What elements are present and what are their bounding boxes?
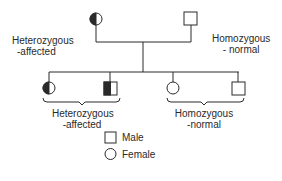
child-3-symbol — [167, 82, 179, 94]
marriage-line — [96, 25, 191, 42]
affected-group-label: Heterozygous -affected — [52, 108, 112, 130]
mother-label: Heterozygous -affected — [12, 35, 74, 57]
child-4-symbol — [232, 82, 245, 95]
affected-brace — [43, 98, 120, 105]
child-1-symbol — [43, 82, 55, 94]
legend-male-label: Male — [122, 132, 144, 143]
mother-symbol — [90, 13, 102, 25]
normal-group-label: Homozygous -normal — [174, 108, 234, 130]
legend-female-icon — [105, 149, 116, 160]
normal-brace — [167, 98, 244, 105]
father-symbol — [184, 12, 197, 25]
child-2-symbol — [104, 82, 117, 95]
legend-female-label: Female — [122, 149, 155, 160]
father-label: Homozygous - normal — [212, 33, 270, 55]
legend-male-icon — [105, 132, 116, 143]
